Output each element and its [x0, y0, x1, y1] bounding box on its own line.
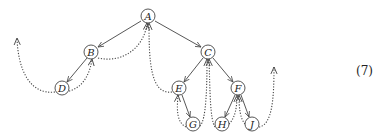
thread-G-C [200, 59, 207, 126]
thread-J-F [239, 95, 245, 124]
edge-A-B [98, 21, 141, 47]
node-J: J [245, 117, 259, 131]
tree-edges [67, 21, 249, 117]
svg-text:G: G [189, 119, 197, 130]
edge-F-J [241, 95, 249, 117]
edge-F-H [225, 95, 235, 117]
thread-end [259, 67, 274, 127]
thread-start [17, 38, 55, 92]
equation-number: (7) [356, 64, 373, 78]
thread-E-A [149, 23, 172, 92]
thread-H-C [209, 59, 215, 127]
edge-C-F [213, 58, 233, 82]
svg-text:D: D [57, 83, 66, 94]
node-D: D [55, 81, 69, 95]
edge-B-D [67, 58, 87, 82]
node-G: G [186, 117, 200, 131]
edge-C-E [184, 58, 203, 82]
thread-B-A [98, 23, 147, 59]
node-C: C [201, 45, 215, 59]
node-H: H [215, 117, 229, 131]
node-E: E [172, 81, 186, 95]
node-F: F [231, 81, 245, 95]
node-B: B [84, 45, 98, 59]
thread-paths [17, 23, 274, 127]
svg-text:C: C [204, 47, 212, 58]
node-A: A [141, 9, 155, 23]
svg-text:F: F [234, 83, 243, 94]
svg-text:A: A [143, 11, 151, 22]
tree-diagram: A B C D E F G H J [0, 0, 386, 140]
edge-A-C [155, 21, 201, 47]
thread-G-E [177, 95, 186, 127]
svg-text:H: H [217, 119, 227, 130]
svg-text:E: E [174, 83, 183, 94]
edge-E-G [182, 95, 190, 117]
svg-text:J: J [248, 119, 255, 130]
svg-text:B: B [86, 47, 94, 58]
